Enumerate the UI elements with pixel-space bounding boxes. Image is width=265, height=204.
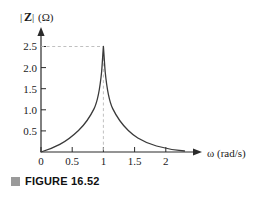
x-tick-label-4: 2	[163, 155, 169, 167]
y-axis-ticks	[41, 47, 46, 131]
y-tick-label-4: 2.5	[23, 40, 37, 52]
y-tick-label-2: 1.5	[23, 83, 37, 95]
y-tick-label-1: 1.0	[23, 104, 37, 116]
y-axis	[37, 27, 44, 152]
square-bullet-icon	[11, 177, 20, 186]
y-axis-title-symbol: Z	[24, 10, 32, 24]
resonance-plot: 0.5 1.0 1.5 2.0 2.5 0 0.5 1 1.5 2	[0, 0, 265, 204]
y-axis-title-bar-left: |	[20, 11, 22, 23]
x-tick-label-1: 0.5	[65, 155, 79, 167]
y-axis-title-unit: (Ω)	[38, 11, 54, 24]
figure-caption-text: FIGURE 16.52	[25, 175, 100, 187]
x-tick-label-0: 0	[38, 155, 44, 167]
impedance-magnitude-curve	[41, 47, 185, 153]
x-axis-title: ω (rad/s)	[207, 147, 246, 160]
y-tick-label-3: 2.0	[23, 62, 37, 74]
x-tick-label-3: 1.5	[128, 155, 142, 167]
x-tick-label-2: 1	[101, 155, 107, 167]
y-axis-title-bar-right: |	[32, 11, 34, 23]
figure-container: 0.5 1.0 1.5 2.0 2.5 0 0.5 1 1.5 2	[0, 0, 265, 204]
x-axis-arrowhead	[193, 148, 202, 155]
y-tick-label-0: 0.5	[23, 125, 37, 137]
y-axis-arrowhead	[37, 27, 44, 36]
y-axis-tick-labels: 0.5 1.0 1.5 2.0 2.5	[23, 40, 37, 136]
x-axis-tick-labels: 0 0.5 1 1.5 2	[38, 155, 168, 167]
figure-caption: FIGURE 16.52	[11, 175, 100, 187]
y-axis-title: | Z | (Ω)	[20, 10, 54, 24]
